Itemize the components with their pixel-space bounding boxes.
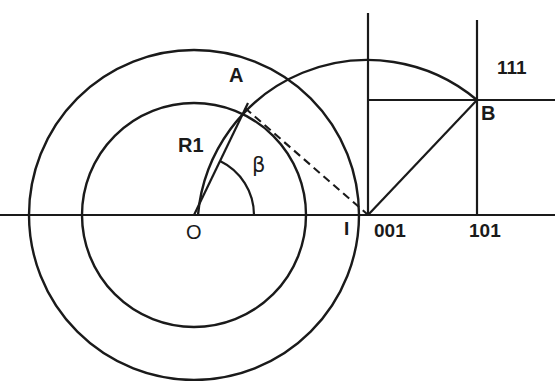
label-radius-r1: R1	[178, 135, 204, 155]
figure-canvas	[0, 0, 555, 381]
label-angle-beta: β	[252, 155, 265, 176]
label-index-111: 111	[497, 58, 527, 77]
label-index-101: 101	[469, 221, 501, 240]
ray-001-to-b	[368, 100, 477, 215]
label-point-i: I	[344, 219, 349, 238]
radius-r1-line	[194, 103, 248, 215]
label-center-o: O	[186, 222, 202, 242]
label-index-001: 001	[374, 221, 406, 240]
beta-angle-arc	[220, 161, 254, 215]
label-point-a: A	[229, 65, 243, 85]
geometry-figure: A R1 β O I 001 101 111 B	[0, 0, 555, 381]
label-point-b: B	[481, 103, 495, 123]
